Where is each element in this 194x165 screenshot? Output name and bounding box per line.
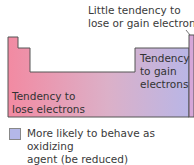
- legend-text: More likely to behave as oxidizing agent…: [27, 127, 194, 165]
- gain-electrons-label: Tendency to gain electrons: [140, 52, 190, 91]
- legend-text-line-2: agent (be reduced): [27, 153, 194, 165]
- legend-item-oxidizing: More likely to behave as oxidizing agent…: [9, 127, 194, 165]
- callout-line-2: lose or gain electrons: [88, 17, 194, 30]
- lose-label-line-2: lose electrons: [12, 103, 85, 116]
- callout-line-1: Little tendency to: [88, 4, 194, 17]
- legend: More likely to behave as oxidizing agent…: [9, 127, 194, 165]
- legend-swatch-blue: [9, 128, 21, 140]
- legend-text-line-1: More likely to behave as oxidizing: [27, 127, 194, 153]
- lose-electrons-label: Tendency to lose electrons: [12, 90, 85, 116]
- noble-gas-callout: Little tendency to lose or gain electron…: [88, 4, 194, 30]
- periodic-table-diagram: Little tendency to lose or gain electron…: [0, 0, 194, 120]
- gain-label-line-1: Tendency: [140, 52, 190, 65]
- gain-label-line-2: to gain: [140, 65, 190, 78]
- lose-label-line-1: Tendency to: [12, 90, 85, 103]
- gain-label-line-3: electrons: [140, 78, 190, 91]
